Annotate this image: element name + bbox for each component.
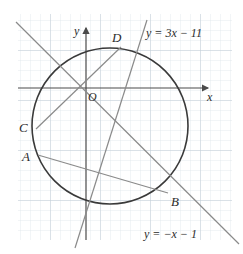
origin-label: O — [88, 90, 97, 104]
line-equation-diagonal: y = −x − 1 — [143, 227, 197, 241]
line-equation-steep: y = 3x − 11 — [145, 26, 202, 40]
point-label-b: B — [171, 194, 179, 209]
point-label-c: C — [19, 120, 28, 135]
graph-paper-grid — [18, 14, 232, 240]
x-axis-label: x — [206, 90, 213, 104]
y-axis-label: y — [73, 24, 80, 38]
figure-canvas: A B C D O y x y = 3x − 11 y = −x − 1 — [0, 0, 243, 254]
point-label-a: A — [21, 149, 30, 164]
geometry-figure: A B C D O y x y = 3x − 11 y = −x − 1 — [0, 0, 243, 254]
point-label-d: D — [111, 30, 122, 45]
